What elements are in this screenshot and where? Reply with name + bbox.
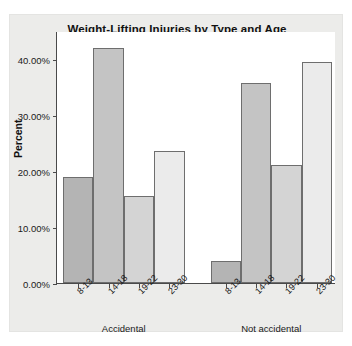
x-group-label: Accidental bbox=[102, 323, 146, 334]
x-group-label: Not accidental bbox=[241, 323, 301, 334]
y-tick-label: 0.00% bbox=[23, 279, 50, 290]
bar bbox=[63, 177, 93, 283]
bar bbox=[154, 151, 184, 283]
y-tick-mark bbox=[53, 284, 57, 285]
y-tick-label: 20.00% bbox=[18, 167, 50, 178]
plot-area: 0.00%10.00%20.00%30.00%40.00% 8-1314-181… bbox=[56, 32, 335, 284]
y-tick-label: 30.00% bbox=[18, 111, 50, 122]
bar bbox=[241, 83, 271, 283]
bar bbox=[271, 165, 301, 283]
y-axis-title: Percent bbox=[12, 119, 24, 158]
bar bbox=[124, 196, 154, 283]
bars-layer bbox=[57, 32, 335, 283]
y-tick-label: 10.00% bbox=[18, 223, 50, 234]
chart-figure: Weight-Lifting Injuries by Type and Age … bbox=[0, 0, 352, 346]
bar bbox=[93, 48, 123, 283]
y-tick-label: 40.00% bbox=[18, 55, 50, 66]
bar bbox=[302, 62, 332, 283]
